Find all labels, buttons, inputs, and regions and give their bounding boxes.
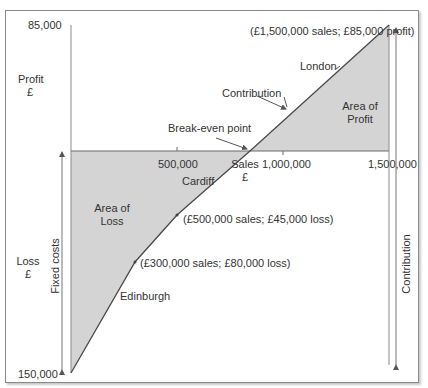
- area-of-loss-label: Area of Loss: [88, 202, 136, 228]
- break-even-pointer: [216, 138, 247, 149]
- sales-currency: £: [228, 171, 262, 184]
- london-label: London: [300, 60, 337, 73]
- x-tick-500k: 500,000: [158, 158, 198, 171]
- y-bottom-value: 150,000: [18, 368, 58, 381]
- loss-axis-label: Loss £: [16, 255, 40, 281]
- top-point-annotation: (£1,500,000 sales; £85,000 profit): [250, 25, 415, 38]
- area-loss-line-1: Area of: [88, 202, 136, 215]
- contribution-pointer: [284, 97, 287, 107]
- area-loss-line-2: Loss: [88, 215, 136, 228]
- contribution-right-label: Contribution: [400, 229, 412, 299]
- profit-label: Profit: [18, 73, 42, 86]
- profit-axis-label: Profit £: [18, 73, 42, 99]
- loss-label: Loss: [16, 255, 40, 268]
- area-of-profit-label: Area of Profit: [336, 100, 384, 126]
- kink-500k-annotation: (£500,000 sales; £45,000 loss): [183, 213, 333, 226]
- kink-300k-marker: [134, 261, 137, 264]
- loss-currency: £: [16, 268, 40, 281]
- kink-500k-marker: [176, 214, 179, 217]
- chart-canvas: [0, 0, 428, 388]
- edinburgh-label: Edinburgh: [120, 290, 170, 303]
- break-even-label: Break-even point: [168, 122, 251, 135]
- kink-300k-annotation: (£300,000 sales; £80,000 loss): [140, 257, 290, 270]
- cardiff-label: Cardiff: [182, 175, 214, 188]
- fixed-costs-label: Fixed costs: [49, 231, 61, 301]
- area-profit-line-2: Profit: [336, 113, 384, 126]
- sales-label: Sales: [228, 158, 262, 171]
- x-tick-1m: 1,000,000: [262, 158, 311, 171]
- contribution-line-label: Contribution: [222, 87, 281, 100]
- sales-axis-label: Sales £: [228, 158, 262, 184]
- x-tick-1-5m: 1,500,000: [368, 158, 417, 171]
- profit-currency: £: [18, 86, 42, 99]
- area-profit-line-1: Area of: [336, 100, 384, 113]
- y-top-value: 85,000: [28, 19, 62, 32]
